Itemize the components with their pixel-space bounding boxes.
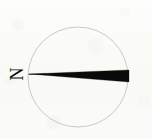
north-label: N xyxy=(3,63,31,85)
orientation-wedge xyxy=(29,70,129,82)
rose-diagram-figure: N xyxy=(0,0,152,139)
